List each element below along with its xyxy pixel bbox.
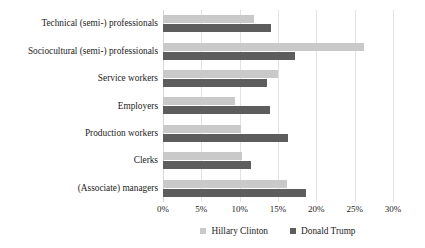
plot-area xyxy=(163,10,393,202)
bar-trump xyxy=(163,134,288,142)
bar-clinton xyxy=(163,152,242,160)
bar-clinton xyxy=(163,125,241,133)
bar-track xyxy=(163,189,393,197)
bar-clinton xyxy=(163,70,278,78)
category-label: Production workers xyxy=(0,128,158,139)
bar-group xyxy=(163,92,393,119)
category-axis-labels: Technical (semi-) professionalsSociocult… xyxy=(0,10,158,202)
bar-track xyxy=(163,52,393,60)
bar-track xyxy=(163,161,393,169)
bar-track xyxy=(163,125,393,133)
bar-clinton xyxy=(163,15,254,23)
bar-track xyxy=(163,79,393,87)
x-tick-label: 25% xyxy=(346,203,363,216)
x-tick-label: 0% xyxy=(157,203,169,216)
bar-group xyxy=(163,65,393,92)
legend-item-trump[interactable]: Donald Trump xyxy=(290,226,356,237)
legend-swatch-icon xyxy=(200,228,206,234)
bar-track xyxy=(163,97,393,105)
category-label: Clerks xyxy=(0,155,158,166)
bar-chart: Technical (semi-) professionalsSociocult… xyxy=(0,0,425,248)
bar-track xyxy=(163,106,393,114)
bar-track xyxy=(163,70,393,78)
category-label: Sociocultural (semi-) professionals xyxy=(0,46,158,57)
x-tick-label: 30% xyxy=(385,203,402,216)
x-tick-label: 10% xyxy=(231,203,248,216)
bar-group xyxy=(163,175,393,202)
bar-track xyxy=(163,134,393,142)
category-label: Technical (semi-) professionals xyxy=(0,18,158,29)
x-tick-label: 5% xyxy=(195,203,207,216)
bar-track xyxy=(163,152,393,160)
bar-group xyxy=(163,120,393,147)
bar-trump xyxy=(163,24,271,32)
bar-track xyxy=(163,15,393,23)
bar-trump xyxy=(163,106,270,114)
bar-track xyxy=(163,180,393,188)
legend-item-clinton[interactable]: Hillary Clinton xyxy=(200,226,268,237)
legend-swatch-icon xyxy=(290,228,296,234)
gridline-30pct xyxy=(393,10,394,202)
chart-legend: Hillary ClintonDonald Trump xyxy=(163,223,393,239)
bar-group xyxy=(163,37,393,64)
bar-group xyxy=(163,147,393,174)
bar-track xyxy=(163,43,393,51)
bar-trump xyxy=(163,189,306,197)
bar-trump xyxy=(163,79,267,87)
category-label: Service workers xyxy=(0,73,158,84)
bar-track xyxy=(163,24,393,32)
bar-rows xyxy=(163,10,393,202)
bar-clinton xyxy=(163,97,235,105)
bar-trump xyxy=(163,52,295,60)
bar-trump xyxy=(163,161,251,169)
x-tick-label: 20% xyxy=(308,203,325,216)
bar-clinton xyxy=(163,180,287,188)
bar-clinton xyxy=(163,43,364,51)
legend-label: Donald Trump xyxy=(301,226,356,237)
x-tick-label: 15% xyxy=(270,203,287,216)
category-label: (Associate) managers xyxy=(0,183,158,194)
category-label: Employers xyxy=(0,101,158,112)
bar-group xyxy=(163,10,393,37)
legend-label: Hillary Clinton xyxy=(211,226,268,237)
x-axis-tick-labels: 0%5%10%15%20%25%30% xyxy=(163,203,393,216)
